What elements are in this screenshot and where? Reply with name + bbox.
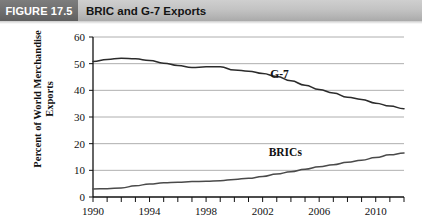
- figure-container: FIGURE 17.5 BRIC and G-7 Exports Percent…: [0, 0, 422, 220]
- y-tick-label: 50: [74, 58, 86, 70]
- y-tick-label: 0: [80, 191, 86, 203]
- series-label-brics: BRICs: [269, 146, 303, 158]
- series-line-brics: [93, 153, 404, 189]
- x-tick-label: 2002: [252, 205, 274, 217]
- y-tick-label: 30: [74, 111, 86, 123]
- y-tick-label: 10: [74, 164, 86, 176]
- series-line-g-7: [93, 58, 404, 108]
- y-axis-title: Percent of World Merchandise Exports: [32, 19, 56, 179]
- x-tick-label: 2006: [308, 205, 331, 217]
- x-tick-label: 2010: [365, 205, 388, 217]
- chart-area: Percent of World Merchandise Exports 010…: [0, 21, 422, 220]
- y-tick-label: 40: [74, 84, 86, 96]
- x-tick-label: 1998: [195, 205, 218, 217]
- y-tick-label: 60: [74, 31, 86, 43]
- x-tick-label: 1990: [82, 205, 105, 217]
- figure-number-badge: FIGURE 17.5: [0, 0, 78, 21]
- series-label-g-7: G-7: [270, 68, 289, 80]
- line-chart: 0102030405060199019941998200220062010G-7…: [0, 21, 422, 220]
- x-tick-label: 1994: [139, 205, 162, 217]
- y-tick-label: 20: [74, 138, 86, 150]
- figure-title: BRIC and G-7 Exports: [86, 0, 206, 21]
- figure-header: FIGURE 17.5 BRIC and G-7 Exports: [0, 0, 422, 21]
